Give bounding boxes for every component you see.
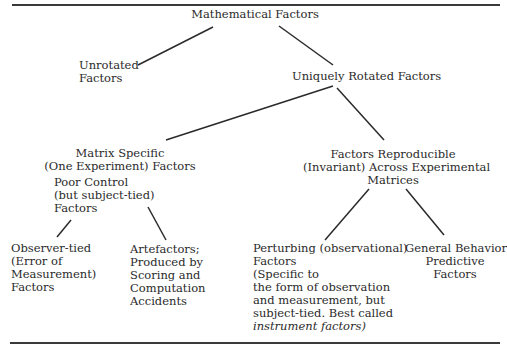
- node-line: Factors: [11, 281, 96, 294]
- edge-reproducible-perturbing: [325, 189, 369, 240]
- node-observer-tied: Observer-tied (Error of Measurement) Fac…: [11, 242, 96, 294]
- node-general-behavior: General Behavior Predictive Factors: [405, 242, 505, 281]
- node-line: Uniquely Rotated Factors: [292, 70, 441, 83]
- node-line: Factors: [54, 202, 154, 215]
- node-line: (One Experiment) Factors: [40, 160, 200, 173]
- node-line: Mathematical Factors: [180, 8, 330, 21]
- edge-root-rotated: [279, 26, 333, 65]
- edge-reproducible-general: [406, 189, 444, 235]
- edge-root-unrotated: [138, 27, 213, 65]
- node-poor-control: Poor Control (but subject-tied) Factors: [54, 176, 154, 215]
- node-mathematical-factors: Mathematical Factors: [180, 8, 330, 21]
- node-perturbing-factors: Perturbing (observational) Factors (Spec…: [253, 242, 408, 333]
- node-line: Accidents: [130, 295, 206, 308]
- node-unrotated-factors: Unrotated Factors: [79, 59, 139, 85]
- node-line-italic: instrument factors): [253, 320, 408, 333]
- node-matrix-specific: Matrix Specific (One Experiment) Factors: [40, 147, 200, 173]
- edge-poorcontrol-observer: [57, 220, 71, 237]
- node-line: Matrices: [303, 174, 483, 187]
- node-artefactors: Artefactors; Produced by Scoring and Com…: [130, 243, 206, 308]
- node-uniquely-rotated-factors: Uniquely Rotated Factors: [292, 70, 441, 83]
- node-line: Factors: [405, 268, 505, 281]
- edge-rotated-matrix-specific: [166, 86, 333, 140]
- edge-rotated-reproducible: [337, 88, 384, 140]
- node-line: Factors: [79, 72, 139, 85]
- node-factors-reproducible: Factors Reproducible (Invariant) Across …: [303, 148, 483, 187]
